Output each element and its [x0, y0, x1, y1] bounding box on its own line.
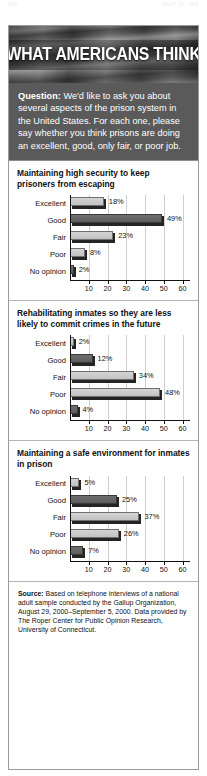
- x-tick-label: 50: [160, 424, 168, 433]
- what-americans-think-figure: WHAT AMERICANS THINK Question: We'd like…: [8, 25, 199, 770]
- bar-shadow: [72, 223, 164, 226]
- y-axis: [70, 195, 71, 280]
- bar-shadow-side: [78, 407, 80, 416]
- bar-value-label: 18%: [109, 197, 124, 207]
- bar-track: 12%: [70, 352, 190, 369]
- chart-row: Poor8%: [17, 246, 190, 263]
- bar-wrapper: [70, 354, 93, 366]
- running-head: 500 PART VI · SIX: [0, 1, 207, 11]
- x-tick-label: 10: [85, 424, 93, 433]
- chart-row: No opinion2%: [17, 263, 190, 280]
- category-label: No opinion: [17, 268, 70, 276]
- bar-track: 5%: [70, 476, 190, 493]
- bar: [70, 248, 85, 257]
- chart-block-3: Maintaining a safe environment for inmat…: [9, 441, 198, 574]
- bar-shadow-side: [134, 373, 136, 382]
- category-label: Poor: [17, 251, 70, 259]
- bar-shadow: [72, 363, 95, 366]
- bar-wrapper: [70, 478, 79, 490]
- running-head-right: PART VI · SIX: [162, 1, 199, 11]
- bar-wrapper: [70, 512, 139, 524]
- chart-row: Fair23%: [17, 229, 190, 246]
- bar: [70, 231, 113, 240]
- bar-value-label: 8%: [90, 248, 101, 258]
- bar: [70, 197, 104, 206]
- x-tick-label: 10: [85, 565, 93, 574]
- bar-track: 2%: [70, 263, 190, 280]
- chart-row: Fair37%: [17, 510, 190, 527]
- bar-shadow: [72, 240, 115, 243]
- bar-wrapper: [70, 546, 83, 558]
- charts-container: Maintaining high security to keep prison…: [9, 161, 198, 575]
- bar: [70, 546, 83, 555]
- x-tick-label: 10: [85, 284, 93, 293]
- bar-value-label: 37%: [144, 512, 159, 522]
- chart-plot: Excellent5%Good25%Fair37%Poor26%No opini…: [17, 476, 190, 573]
- bar-value-label: 2%: [79, 337, 90, 347]
- bar-value-label: 5%: [84, 478, 95, 488]
- chart-block-1: Maintaining high security to keep prison…: [9, 161, 198, 294]
- bar-track: 37%: [70, 510, 190, 527]
- bar: [70, 405, 78, 414]
- bar-value-label: 48%: [165, 388, 180, 398]
- question-panel: Question: We'd like to ask you about sev…: [9, 83, 198, 161]
- bar: [70, 354, 93, 363]
- bar-value-label: 2%: [79, 265, 90, 275]
- bar-shadow-side: [74, 339, 76, 348]
- category-label: Excellent: [17, 200, 70, 208]
- bar-track: 48%: [70, 386, 190, 403]
- bar: [70, 478, 79, 487]
- bar: [70, 371, 134, 380]
- x-axis-ticks: 102030405060: [70, 421, 190, 432]
- chart-title: Maintaining high security to keep prison…: [17, 168, 190, 189]
- bar-shadow-side: [139, 514, 141, 523]
- bar-wrapper: [70, 371, 134, 383]
- bar-shadow-side: [83, 548, 85, 557]
- x-tick-label: 20: [104, 424, 112, 433]
- category-label: Poor: [17, 391, 70, 399]
- chart-row: No opinion7%: [17, 544, 190, 561]
- category-label: Good: [17, 357, 70, 365]
- bar-shadow: [72, 397, 162, 400]
- bar-shadow-side: [93, 356, 95, 365]
- bar: [70, 529, 119, 538]
- source-note: Source: Based on telephone interviews of…: [9, 581, 198, 643]
- bar-shadow-side: [104, 199, 106, 208]
- bar-wrapper: [70, 248, 85, 260]
- chart-row: No opinion4%: [17, 403, 190, 420]
- bar-value-label: 26%: [124, 529, 139, 539]
- bar-value-label: 25%: [122, 495, 137, 505]
- bar-track: 8%: [70, 246, 190, 263]
- bar-shadow: [72, 538, 121, 541]
- bar: [70, 495, 117, 504]
- chart-row: Fair34%: [17, 369, 190, 386]
- banner-title: WHAT AMERICANS THINK: [18, 39, 188, 70]
- x-tick-label: 30: [122, 424, 130, 433]
- bar-track: 25%: [70, 493, 190, 510]
- bar-value-label: 12%: [98, 354, 113, 364]
- figure-page: 500 PART VI · SIX WHAT AMERICANS THINK Q…: [0, 0, 207, 776]
- bar-shadow: [72, 380, 136, 383]
- x-tick-label: 60: [179, 565, 187, 574]
- chart-block-2: Rehabilitating inmates so they are less …: [9, 301, 198, 434]
- x-tick-label: 40: [141, 284, 149, 293]
- bar-shadow: [72, 521, 141, 524]
- x-tick-label: 50: [160, 284, 168, 293]
- bar-wrapper: [70, 405, 78, 417]
- bar-track: 2%: [70, 335, 190, 352]
- chart-row: Good25%: [17, 493, 190, 510]
- bar-track: 4%: [70, 403, 190, 420]
- bar-value-label: 23%: [118, 231, 133, 241]
- question-label: Question:: [18, 91, 61, 101]
- category-label: No opinion: [17, 408, 70, 416]
- bar-value-label: 4%: [83, 405, 94, 415]
- bar-shadow-side: [85, 250, 87, 259]
- chart-title: Maintaining a safe environment for inmat…: [17, 448, 190, 469]
- category-label: Fair: [17, 514, 70, 522]
- x-tick-label: 20: [104, 284, 112, 293]
- bar-shadow: [72, 504, 119, 507]
- bar-wrapper: [70, 495, 117, 507]
- bar-track: 26%: [70, 527, 190, 544]
- x-tick-label: 40: [141, 565, 149, 574]
- bar-wrapper: [70, 214, 162, 226]
